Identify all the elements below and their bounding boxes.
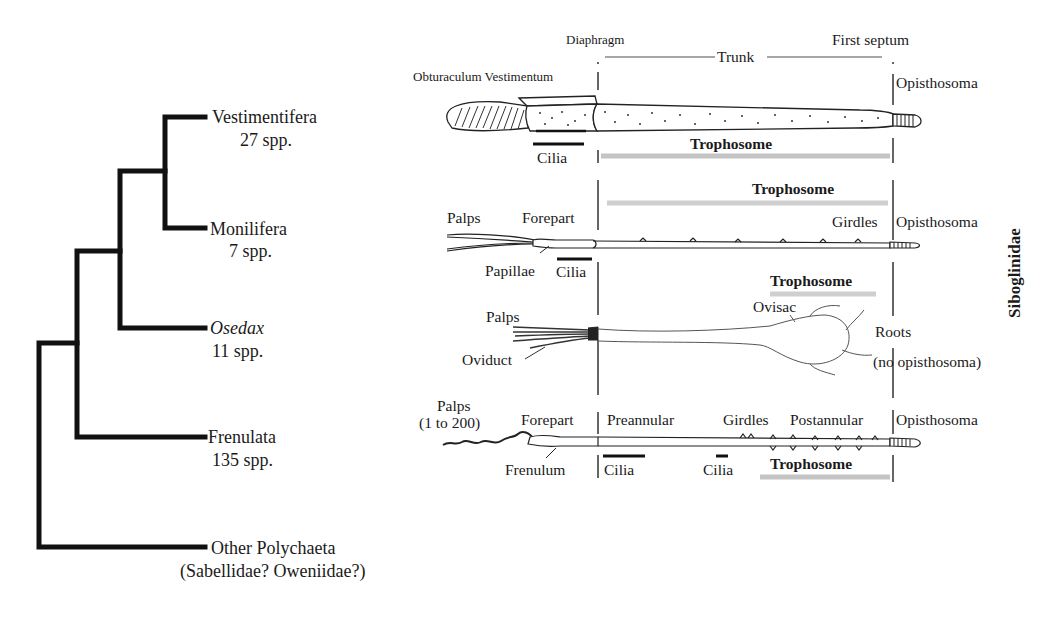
- label-no-opisthosoma: (no opisthosoma): [873, 354, 981, 370]
- label-postannular: Postannular: [790, 412, 863, 428]
- label-girdles-4: Girdles: [723, 412, 769, 428]
- label-papillae: Papillae: [485, 263, 535, 279]
- label-girdles-2: Girdles: [832, 214, 878, 230]
- label-trophosome-1: Trophosome: [690, 136, 772, 152]
- label-roots: Roots: [875, 324, 911, 340]
- taxon-vestimentifera-count: 27 spp.: [240, 131, 292, 149]
- branch-vestimentifera-monilifera: [165, 117, 205, 228]
- label-opisthosoma-2: Opisthosoma: [896, 214, 978, 230]
- worm-osedax: [513, 305, 872, 375]
- label-trophosome-2: Trophosome: [752, 181, 834, 197]
- label-opisthosoma-1: Opisthosoma: [896, 75, 978, 91]
- taxon-other-polychaeta: Other Polychaeta: [211, 539, 335, 557]
- label-obturaculum-vestimentum: Obturaculum Vestimentum: [413, 70, 553, 83]
- taxon-frenulata-count: 135 spp.: [212, 451, 273, 469]
- label-opisthosoma-4: Opisthosoma: [896, 412, 978, 428]
- label-oviduct: Oviduct: [462, 352, 512, 368]
- label-palps-4: Palps: [437, 398, 471, 414]
- diagram-graphics: [0, 0, 1043, 619]
- taxon-osedax-count: 11 spp.: [212, 342, 263, 360]
- branch-frenulata: [77, 251, 205, 437]
- label-cilia-4b: Cilia: [703, 462, 733, 478]
- label-cilia-4a: Cilia: [604, 462, 634, 478]
- worm-vestimentifera: [447, 96, 921, 131]
- label-trunk: Trunk: [717, 49, 754, 65]
- label-cilia-1: Cilia: [537, 150, 567, 166]
- taxon-vestimentifera: Vestimentifera: [212, 108, 317, 126]
- label-ovisac: Ovisac: [753, 299, 796, 315]
- branch-other-polychaeta: [39, 343, 205, 547]
- label-first-septum: First septum: [832, 32, 909, 48]
- phylogenetic-tree: [39, 117, 205, 547]
- taxon-osedax: Osedax: [210, 319, 264, 337]
- label-trophosome-4: Trophosome: [770, 456, 852, 472]
- taxon-frenulata: Frenulata: [208, 428, 276, 446]
- label-forepart-4: Forepart: [521, 412, 574, 428]
- family-label-siboglinidae: Siboglinidae: [1005, 228, 1025, 318]
- taxon-monilifera-count: 7 spp.: [229, 242, 272, 260]
- label-trophosome-3: Trophosome: [770, 273, 852, 289]
- label-frenulum: Frenulum: [505, 462, 565, 478]
- label-preannular: Preannular: [607, 412, 674, 428]
- label-cilia-2: Cilia: [556, 264, 586, 280]
- taxon-other-polychaeta-count: (Sabellidae? Oweniidae?): [180, 562, 365, 580]
- label-forepart-2: Forepart: [522, 210, 575, 226]
- label-palps-2: Palps: [447, 210, 481, 226]
- taxon-monilifera: Monilifera: [210, 220, 287, 238]
- worm-monilifera: [447, 234, 920, 253]
- label-palps-3: Palps: [486, 309, 520, 325]
- label-diaphragm: Diaphragm: [566, 33, 624, 46]
- label-palps-range: (1 to 200): [419, 415, 480, 431]
